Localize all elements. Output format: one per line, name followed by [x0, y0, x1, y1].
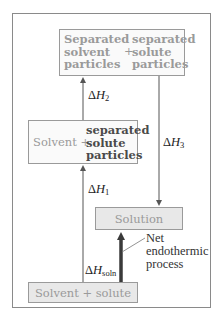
- box-separated-particles: Separated solvent particles + separated …: [59, 29, 185, 76]
- label-dh2: ΔH2: [88, 88, 109, 103]
- delta-symbol: Δ: [163, 135, 171, 149]
- label-dhsoln: ΔHsoln: [85, 263, 116, 278]
- text-line: particles: [86, 149, 149, 162]
- enthalpy-symbol: H: [171, 135, 180, 149]
- box-solution: Solution: [95, 207, 183, 230]
- box-solvent-solute: Solvent + solute: [28, 282, 138, 303]
- subscript: 3: [180, 140, 184, 150]
- text-line: particles: [64, 58, 129, 71]
- bottom-box-label: Solvent + solute: [29, 287, 137, 300]
- box-solvent-separated-solute: Solvent + separated solute particles: [28, 120, 138, 164]
- text-line: separated: [86, 124, 149, 137]
- text-line: separated: [132, 33, 195, 46]
- middle-box-left-text: Solvent +: [33, 136, 90, 149]
- text-line: process: [146, 258, 208, 271]
- delta-symbol: Δ: [88, 182, 96, 196]
- label-dh1: ΔH1: [88, 182, 109, 197]
- annotation-net-endothermic: Net endothermic process: [146, 232, 208, 271]
- subscript: 2: [105, 93, 109, 103]
- enthalpy-symbol: H: [96, 182, 105, 196]
- top-box-left-text: Separated solvent particles: [64, 33, 129, 71]
- middle-box-right-text: separated solute particles: [86, 124, 149, 162]
- label-dh3: ΔH3: [163, 135, 184, 150]
- text-line: particles: [132, 58, 195, 71]
- delta-symbol: Δ: [88, 88, 96, 102]
- top-box-right-text: separated solute particles: [132, 33, 195, 71]
- annotation-leader-line: [122, 238, 145, 252]
- subscript: soln: [102, 268, 116, 278]
- enthalpy-symbol: H: [93, 263, 102, 277]
- text-line: Separated: [64, 33, 129, 46]
- subscript: 1: [105, 187, 109, 197]
- delta-symbol: Δ: [85, 263, 93, 277]
- enthalpy-symbol: H: [96, 88, 105, 102]
- solution-label: Solution: [96, 213, 182, 226]
